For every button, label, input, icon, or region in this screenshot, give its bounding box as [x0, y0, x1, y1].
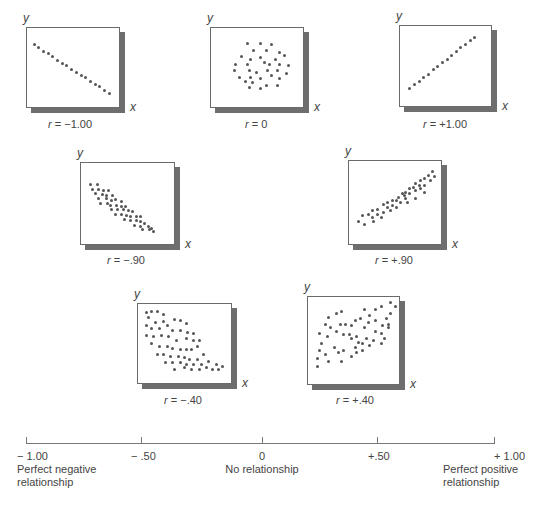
data-point [177, 355, 180, 358]
data-point [150, 342, 153, 345]
data-point [446, 58, 449, 61]
data-point [114, 213, 117, 216]
data-point [179, 361, 182, 364]
data-point [89, 183, 92, 186]
data-point [418, 80, 421, 83]
data-point [42, 50, 45, 53]
data-point [133, 224, 136, 227]
data-point [51, 55, 54, 58]
data-point [129, 219, 132, 222]
data-point [70, 68, 73, 71]
data-point [354, 346, 357, 349]
data-point [389, 301, 392, 304]
data-point [372, 339, 375, 342]
data-point [406, 201, 409, 204]
data-point [162, 320, 165, 323]
data-point [114, 198, 117, 201]
data-point [372, 220, 375, 223]
data-point [97, 188, 100, 191]
x-axis-label: x [452, 237, 458, 251]
data-point [249, 76, 252, 79]
data-point [148, 228, 151, 231]
data-point [316, 357, 319, 360]
data-point [285, 72, 288, 75]
data-point [329, 326, 332, 329]
data-point [324, 353, 327, 356]
data-point [129, 215, 132, 218]
data-point [192, 332, 195, 335]
scatter-plot-r-neg-40 [137, 303, 232, 384]
scatter-plot-r-pos-40 [307, 296, 400, 385]
data-point [147, 316, 150, 319]
data-point [56, 59, 59, 62]
data-point [185, 348, 188, 351]
data-point [355, 335, 358, 338]
data-point [248, 86, 251, 89]
data-point [389, 209, 392, 212]
data-point [395, 199, 398, 202]
data-point [464, 43, 467, 46]
data-point [211, 368, 214, 371]
data-point [127, 209, 130, 212]
data-point [473, 36, 476, 39]
data-point [413, 83, 416, 86]
data-point [162, 353, 165, 356]
data-point [183, 356, 186, 359]
data-point [342, 333, 345, 336]
y-axis-label: y [23, 11, 29, 25]
data-point [374, 308, 377, 311]
data-point [419, 179, 422, 182]
data-point [374, 330, 377, 333]
data-point [422, 76, 425, 79]
data-point [455, 50, 458, 53]
data-point [450, 54, 453, 57]
scatter-plot-r-0 [210, 27, 304, 108]
data-point [179, 348, 182, 351]
data-point [101, 193, 104, 196]
data-point [361, 342, 364, 345]
data-point [414, 189, 417, 192]
x-axis-label: x [410, 377, 416, 391]
data-point [436, 65, 439, 68]
data-point [98, 85, 101, 88]
data-point [205, 366, 208, 369]
r-label-neg-90: r = −.90 [107, 254, 145, 266]
data-point [99, 202, 102, 205]
data-point [252, 49, 255, 52]
data-point [200, 363, 203, 366]
data-point [423, 191, 426, 194]
data-point [383, 337, 386, 340]
data-point [270, 43, 273, 46]
data-point [335, 312, 338, 315]
data-point [429, 179, 432, 182]
data-point [198, 339, 201, 342]
data-point [423, 184, 426, 187]
data-point [164, 361, 167, 364]
data-point [190, 348, 193, 351]
data-point [376, 213, 379, 216]
data-point [91, 188, 94, 191]
data-point [192, 363, 195, 366]
data-point [389, 312, 392, 315]
data-point [333, 346, 336, 349]
data-point [340, 310, 343, 313]
data-point [84, 76, 87, 79]
data-point [240, 55, 243, 58]
data-point [173, 368, 176, 371]
data-point [125, 214, 128, 217]
data-point [408, 87, 411, 90]
data-point [110, 208, 113, 211]
data-point [327, 360, 330, 363]
data-point [139, 220, 142, 223]
data-point [265, 84, 268, 87]
data-point [441, 61, 444, 64]
data-point [350, 337, 353, 340]
data-point [173, 318, 176, 321]
data-point [94, 83, 97, 86]
data-point [160, 334, 163, 337]
correlation-scale-axis [26, 443, 494, 444]
y-axis-label: y [396, 9, 402, 23]
tick-0 [262, 437, 263, 444]
data-point [185, 337, 188, 340]
data-point [371, 209, 374, 212]
